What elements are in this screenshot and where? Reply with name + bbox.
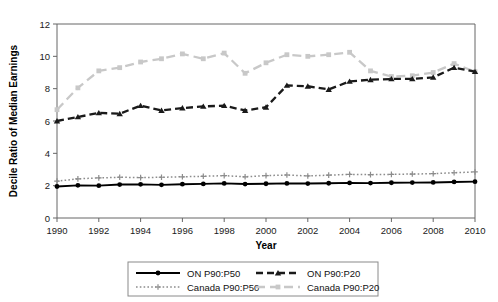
- data-point-canada-p90-p50: [159, 174, 165, 180]
- data-point-canada-p90-p20: [305, 54, 310, 59]
- y-tick-label: 4: [45, 148, 50, 159]
- data-point-canada-p90-p20: [222, 51, 227, 56]
- plot-frame: [57, 24, 475, 218]
- data-point-on-p90-p50: [138, 182, 143, 187]
- x-axis-title: Year: [255, 240, 276, 251]
- data-point-canada-p90-p20: [55, 107, 60, 112]
- data-point-canada-p90-p20: [243, 71, 248, 76]
- data-point-canada-p90-p50: [347, 172, 353, 178]
- data-point-canada-p90-p50: [242, 174, 248, 180]
- data-point-canada-p90-p50: [117, 174, 123, 180]
- legend-label-on-p90-p20: ON P90:P20: [307, 268, 360, 279]
- data-point-canada-p90-p20: [368, 68, 373, 73]
- data-point-canada-p90-p50: [326, 172, 332, 178]
- data-point-canada-p90-p20: [180, 52, 185, 57]
- data-point-canada-p90-p20: [96, 68, 101, 73]
- data-point-canada-p90-p20: [431, 70, 436, 75]
- y-tick-label: 2: [45, 180, 50, 191]
- data-point-canada-p90-p50: [451, 170, 457, 176]
- legend-label-canada-p90-p50: Canada P90:P50: [187, 282, 259, 293]
- data-point-on-p90-p50: [305, 181, 310, 186]
- data-point-on-p90-p50: [326, 181, 331, 186]
- x-tick-label: 2006: [381, 225, 402, 236]
- data-point-on-p90-p50: [159, 182, 164, 187]
- data-point-canada-p90-p20: [347, 50, 352, 55]
- chart-canvas: 0246810121990199219941996199820002002200…: [0, 0, 498, 302]
- x-tick-label: 1994: [130, 225, 151, 236]
- data-point-canada-p90-p50: [305, 173, 311, 179]
- data-point-on-p90-p50: [473, 179, 478, 184]
- data-point-canada-p90-p50: [472, 169, 478, 175]
- y-tick-label: 0: [45, 213, 50, 224]
- data-point-on-p90-p50: [285, 181, 290, 186]
- y-tick-label: 12: [39, 19, 50, 30]
- data-point-on-p90-p50: [180, 182, 185, 187]
- chart-figure: 0246810121990199219941996199820002002200…: [0, 0, 498, 302]
- legend-marker-canada-p90-p20: [276, 285, 281, 290]
- y-tick-label: 10: [39, 51, 50, 62]
- x-tick-label: 2008: [423, 225, 444, 236]
- data-point-canada-p90-p20: [138, 60, 143, 65]
- data-point-canada-p90-p20: [117, 65, 122, 70]
- data-point-on-p90-p50: [410, 180, 415, 185]
- data-point-on-p90-p50: [55, 184, 60, 189]
- y-axis-title: Decile Ratio of Median Earnings: [8, 44, 19, 197]
- data-point-on-p90-p50: [431, 180, 436, 185]
- x-tick-label: 1998: [214, 225, 235, 236]
- data-point-canada-p90-p20: [201, 56, 206, 61]
- data-point-on-p90-p50: [368, 181, 373, 186]
- x-tick-label: 2002: [297, 225, 318, 236]
- legend-label-on-p90-p50: ON P90:P50: [187, 268, 240, 279]
- data-point-on-p90-p50: [389, 180, 394, 185]
- data-point-on-p90-p50: [201, 181, 206, 186]
- legend-marker-on-p90-p50: [156, 271, 161, 276]
- data-point-canada-p90-p50: [284, 172, 290, 178]
- data-point-canada-p90-p50: [410, 171, 416, 177]
- data-point-canada-p90-p50: [180, 174, 186, 180]
- data-point-canada-p90-p50: [430, 171, 436, 177]
- data-point-canada-p90-p50: [96, 175, 102, 181]
- y-tick-label: 6: [45, 116, 50, 127]
- data-point-canada-p90-p20: [264, 60, 269, 65]
- data-point-canada-p90-p50: [263, 173, 269, 179]
- x-tick-label: 1996: [172, 225, 193, 236]
- data-point-canada-p90-p50: [221, 173, 227, 179]
- data-point-on-p90-p50: [264, 181, 269, 186]
- data-point-canada-p90-p50: [368, 172, 374, 178]
- data-point-canada-p90-p50: [138, 175, 144, 181]
- data-point-on-p90-p50: [347, 181, 352, 186]
- data-point-canada-p90-p50: [75, 176, 81, 182]
- data-point-canada-p90-p20: [285, 52, 290, 57]
- data-point-canada-p90-p50: [54, 178, 60, 184]
- data-point-canada-p90-p20: [76, 85, 81, 90]
- data-point-canada-p90-p20: [326, 52, 331, 57]
- x-tick-label: 2004: [339, 225, 360, 236]
- data-point-on-p90-p50: [243, 182, 248, 187]
- data-point-on-p90-p50: [452, 180, 457, 185]
- data-point-canada-p90-p50: [201, 173, 207, 179]
- data-point-on-p90-p50: [117, 182, 122, 187]
- y-tick-label: 8: [45, 83, 50, 94]
- data-point-canada-p90-p20: [159, 56, 164, 61]
- x-tick-label: 1992: [88, 225, 109, 236]
- x-tick-label: 2000: [255, 225, 276, 236]
- data-point-on-p90-p50: [222, 181, 227, 186]
- legend-label-canada-p90-p20: Canada P90:P20: [307, 282, 379, 293]
- x-tick-label: 1990: [46, 225, 67, 236]
- data-point-canada-p90-p50: [389, 172, 395, 178]
- data-point-on-p90-p50: [96, 183, 101, 188]
- data-point-on-p90-p50: [76, 183, 81, 188]
- x-tick-label: 2010: [464, 225, 485, 236]
